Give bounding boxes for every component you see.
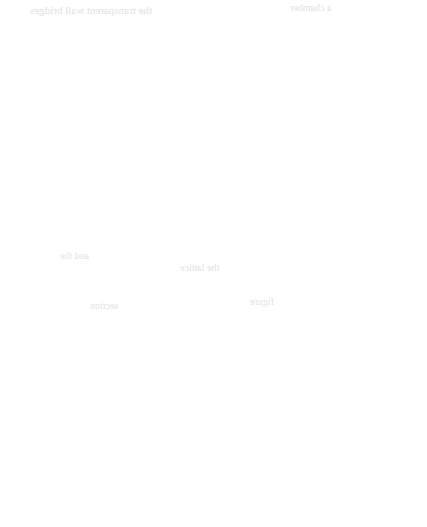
lattice-diagram: [0, 0, 427, 527]
figure-root: the transparent wall bridges a chamber a…: [0, 0, 427, 527]
figure-background: [0, 0, 427, 527]
